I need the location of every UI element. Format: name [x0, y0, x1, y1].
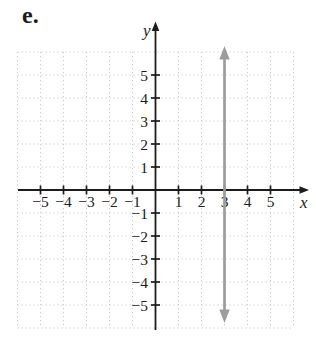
y-tick-label: −5	[132, 297, 149, 314]
y-tick-label: 4	[140, 90, 148, 107]
y-tick-label: −2	[132, 228, 149, 245]
y-tick-label: 2	[140, 136, 148, 153]
graphed-line	[219, 46, 229, 323]
x-tick-label: 2	[198, 193, 206, 210]
x-tick-label: −2	[101, 193, 118, 210]
x-tick-label: 1	[175, 193, 183, 210]
x-tick-label: −3	[78, 193, 95, 210]
coordinate-plane-graph: −5−4−3−2−112345−5−4−3−2−112345xy	[0, 0, 316, 338]
y-axis-label: y	[141, 21, 151, 40]
worksheet-figure: e. −5−4−3−2−112345−5−4−3−2−112345xy	[0, 0, 316, 338]
graphed-line-arrowhead-top	[219, 46, 229, 60]
y-tick-label: 1	[140, 159, 148, 176]
y-tick-label: −4	[132, 274, 149, 291]
y-tick-label: −3	[132, 251, 149, 268]
x-tick-label: 5	[267, 193, 275, 210]
y-tick-label: 5	[140, 67, 148, 84]
y-axis-arrowhead	[152, 22, 160, 32]
x-tick-label: −4	[55, 193, 72, 210]
x-tick-label: −5	[32, 193, 49, 210]
graphed-line-arrowhead-bottom	[219, 310, 229, 324]
x-axis-label: x	[299, 193, 308, 212]
y-tick-label: −1	[132, 205, 149, 222]
y-tick-label: 3	[140, 113, 148, 130]
x-tick-label: 4	[244, 193, 252, 210]
